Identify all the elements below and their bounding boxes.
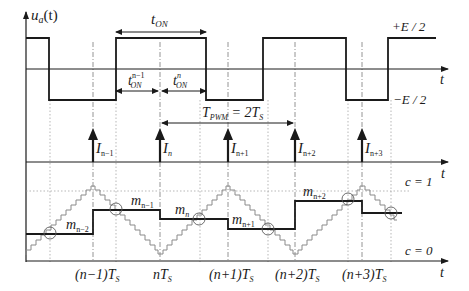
tick-n+2: (n+2)TS — [275, 267, 320, 284]
tick-n: nTS — [153, 267, 172, 284]
m-label-n-1: mn−1 — [131, 193, 154, 210]
m-label-n+1: mn+1 — [232, 212, 255, 229]
staircase-carrier — [26, 186, 397, 255]
c0-label: c = 0 — [405, 243, 433, 258]
low-level-label: −E / 2 — [393, 92, 427, 107]
pwm-timing-diagram: ua(t) +E / 2 −E / 2 t tON tn−1ON tnON t … — [0, 0, 469, 291]
top-panel: ua(t) +E / 2 −E / 2 t tON tn−1ON tnON — [26, 7, 448, 107]
bottom-t-label: t — [440, 265, 445, 280]
intersection-markers — [44, 193, 397, 239]
pulse-label-n+3: In+3 — [364, 140, 383, 158]
m-label-n+2: mn+2 — [303, 184, 326, 201]
pulse-label-n-1: In−1 — [95, 140, 114, 158]
t-on-prev-label: tn−1ON — [128, 71, 144, 90]
t-on-label: tON — [151, 11, 169, 29]
pulse-label-n+2: In+2 — [297, 140, 316, 158]
m-label-n-2: mn−2 — [66, 217, 89, 234]
top-t-label: t — [440, 72, 445, 87]
middle-t-label: t — [441, 166, 446, 181]
high-level-label: +E / 2 — [392, 19, 426, 34]
tick-n-1: (n−1)TS — [75, 267, 120, 284]
tick-n+1: (n+1)TS — [209, 267, 254, 284]
y-axis-label: ua(t) — [31, 7, 58, 25]
t-on-n-label: tnON — [173, 71, 188, 90]
crossing-gridlines — [50, 100, 391, 262]
tick-n+3: (n+3)TS — [342, 267, 387, 284]
middle-panel: t TPWM = 2TS In−1 In In+1 In+2 In+3 — [26, 105, 448, 181]
bottom-panel: c = 1 c = 0 t mn−2 mn−1 mn mn+1 mn+2 (n−… — [26, 174, 448, 284]
pulse-label-n+1: In+1 — [230, 140, 249, 158]
pulse-label-n: In — [162, 140, 172, 158]
t-pwm-label: TPWM = 2TS — [202, 105, 263, 122]
c1-label: c = 1 — [405, 174, 433, 189]
m-label-n: mn — [175, 202, 189, 219]
